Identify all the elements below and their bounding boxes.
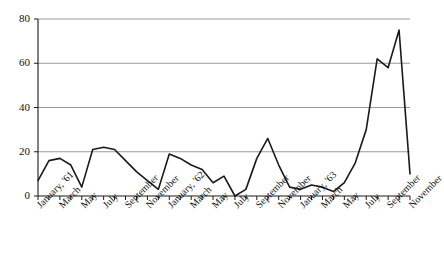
y-tick-label: 40 [8, 102, 30, 113]
y-tick-label: 80 [8, 13, 30, 24]
y-tick-label: 0 [8, 190, 30, 201]
y-tick-label: 20 [8, 146, 30, 157]
y-tick-label: 60 [8, 57, 30, 68]
